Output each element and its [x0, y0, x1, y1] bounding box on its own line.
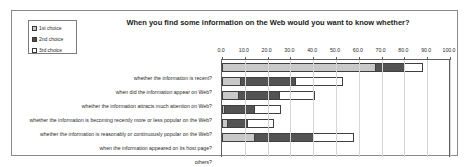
- gridline: [427, 60, 428, 157]
- legend-item-1st-choice: 1st choice: [32, 23, 74, 33]
- category-label: whether the information is reasonably or…: [12, 131, 212, 137]
- gridline: [313, 60, 314, 157]
- value-axis-tick-label: 100.0: [443, 47, 456, 53]
- chart-legend: 1st choice 2nd choice 3rd choice: [28, 20, 77, 54]
- category-label: when did the information appear on Web?: [12, 89, 212, 95]
- value-axis-labels: 0.010.020.030.040.050.060.070.080.090.01…: [210, 47, 450, 57]
- legend-label-2nd-choice: 2nd choice: [39, 36, 63, 42]
- category-label: whether the information is becoming rece…: [12, 117, 212, 123]
- gridline: [359, 60, 360, 157]
- value-axis-tick-label: 20.0: [262, 47, 272, 53]
- gridline: [450, 60, 451, 157]
- chart-title: When you find some information on the We…: [90, 18, 446, 27]
- legend-label-3rd-choice: 3rd choice: [39, 47, 62, 53]
- gridline: [404, 60, 405, 157]
- gridline: [245, 60, 246, 157]
- value-axis-tick-label: 70.0: [376, 47, 386, 53]
- bar-segment: [404, 63, 422, 72]
- gridline: [382, 60, 383, 157]
- category-axis-labels: whether the information is recent?when d…: [12, 59, 212, 167]
- gridline: [268, 60, 269, 157]
- gridline: [336, 60, 337, 157]
- legend-label-1st-choice: 1st choice: [39, 25, 62, 31]
- plot-area: [221, 59, 450, 157]
- value-axis-tick-label: 30.0: [284, 47, 294, 53]
- legend-item-3rd-choice: 3rd choice: [32, 45, 74, 55]
- bar-segment: [222, 91, 238, 100]
- bar-segment: [254, 133, 313, 142]
- value-axis-tick-label: 40.0: [307, 47, 317, 53]
- value-axis-tick: [222, 57, 223, 60]
- value-axis-tick-label: 50.0: [330, 47, 340, 53]
- category-label: whether the information is recent?: [12, 75, 212, 81]
- bar-segment: [247, 119, 274, 128]
- chart-frame: 1st choice 2nd choice 3rd choice When yo…: [11, 10, 458, 156]
- gridline: [290, 60, 291, 157]
- bar-segment: [224, 105, 254, 114]
- value-axis-tick-label: 10.0: [239, 47, 249, 53]
- value-axis-tick-label: 90.0: [421, 47, 431, 53]
- value-axis-tick-label: 0.0: [217, 47, 224, 53]
- bar-segment: [222, 133, 254, 142]
- bar-segment: [313, 133, 354, 142]
- value-axis-tick-label: 60.0: [353, 47, 363, 53]
- chart-screenshot: 1st choice 2nd choice 3rd choice When yo…: [0, 0, 469, 167]
- bar-segment: [222, 77, 240, 86]
- category-label: others?: [12, 159, 212, 165]
- category-label: when the information appeared on its hos…: [12, 145, 212, 151]
- category-label: whether the information attracts much at…: [12, 103, 212, 109]
- bar-segment: [279, 91, 315, 100]
- legend-swatch-icon-3rd-choice: [32, 48, 37, 53]
- legend-swatch-icon-1st-choice: [32, 26, 37, 31]
- legend-item-2nd-choice: 2nd choice: [32, 34, 74, 44]
- plot-wrapper: 0.010.020.030.040.050.060.070.080.090.01…: [210, 47, 450, 159]
- value-axis-tick-label: 80.0: [398, 47, 408, 53]
- legend-swatch-icon-2nd-choice: [32, 37, 37, 42]
- bar-segment: [375, 63, 405, 72]
